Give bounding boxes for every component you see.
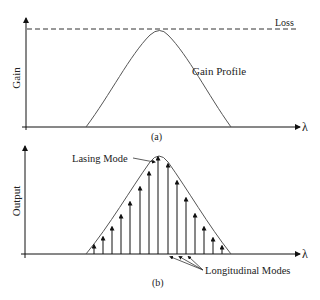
loss-label: Loss (275, 17, 294, 28)
lasing-mode-label: Lasing Mode (72, 153, 128, 164)
gain-axis-label: Gain (10, 67, 22, 89)
gain-profile-curve (86, 31, 231, 128)
panel-a: Gain λ Loss Gain Profile (a) (10, 17, 308, 143)
panel-b: Output λ Lasing Mode Longitudinal Modes … (10, 146, 308, 289)
gain-profile-label: Gain Profile (192, 65, 246, 77)
lambda-label-b: λ (302, 247, 308, 261)
lambda-label-a: λ (302, 120, 308, 134)
longitudinal-modes-pointers (171, 257, 203, 270)
lasing-mode-pointer (133, 158, 154, 162)
caption-a: (a) (151, 131, 162, 143)
longitudinal-modes (94, 158, 222, 254)
caption-b: (b) (152, 277, 164, 289)
longitudinal-modes-label: Longitudinal Modes (205, 265, 290, 276)
laser-gain-diagram: Gain λ Loss Gain Profile (a) (0, 0, 320, 300)
output-axis-label: Output (10, 186, 22, 217)
